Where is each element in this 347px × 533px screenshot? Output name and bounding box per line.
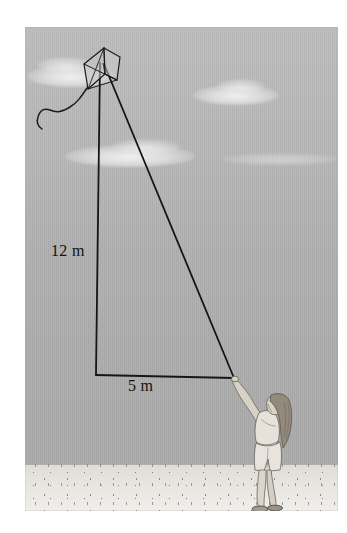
- figure-root: 12 m 5 m: [0, 0, 347, 533]
- triangle-horizontal-leg: [96, 375, 234, 378]
- person-leg-front: [257, 470, 266, 508]
- triangle-vertical-leg: [96, 63, 100, 375]
- triangle-hypotenuse-kite-string: [104, 64, 234, 378]
- kite-tail: [37, 88, 87, 129]
- kite-icon: [84, 48, 120, 89]
- person-figure-icon: [231, 376, 291, 511]
- illustration-plate: 12 m 5 m: [25, 27, 338, 511]
- person-shoe-front: [252, 506, 268, 511]
- person-leg-back: [267, 470, 276, 508]
- right-triangle-group: [96, 63, 234, 378]
- person-shorts: [254, 442, 281, 471]
- diagram-vector-overlay: [25, 27, 338, 511]
- person-hand: [231, 376, 238, 382]
- dimension-label-vertical: 12 m: [51, 243, 85, 259]
- person-shoe-back: [268, 505, 283, 511]
- dimension-label-horizontal: 5 m: [128, 378, 153, 394]
